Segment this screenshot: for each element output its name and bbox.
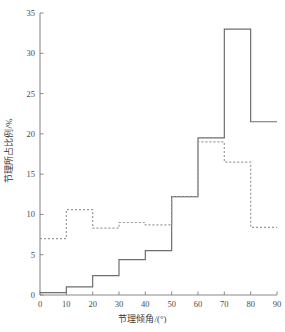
x-tick-label: 90 [273,299,282,309]
y-tick-label: 35 [27,8,36,18]
x-tick-label: 20 [88,299,97,309]
plot-area: 05101520253035 0102030405060708090 [0,0,285,332]
chart-figure: 节理所占比例/% 节理倾角/(°) 05101520253035 0102030… [0,0,285,332]
y-tick-label: 10 [27,209,36,219]
y-tick-label: 25 [27,89,36,99]
x-tick-labels: 0102030405060708090 [38,299,281,309]
x-tick-label: 70 [220,299,229,309]
x-tick-label: 30 [115,299,124,309]
x-tick-label: 50 [167,299,176,309]
y-tick-labels: 05101520253035 [27,8,36,300]
x-tick-label: 0 [38,299,42,309]
x-tick-label: 80 [246,299,255,309]
x-tick-label: 10 [62,299,71,309]
y-tick-label: 0 [31,290,35,300]
x-tick-label: 60 [194,299,203,309]
series-dotted-step [40,142,277,239]
x-tick-label: 40 [141,299,150,309]
y-tick-label: 30 [27,48,36,58]
y-tick-label: 5 [31,250,35,260]
y-tick-label: 15 [27,169,36,179]
series-solid-step [40,29,277,292]
tick-marks [40,13,277,295]
y-tick-label: 20 [27,129,36,139]
